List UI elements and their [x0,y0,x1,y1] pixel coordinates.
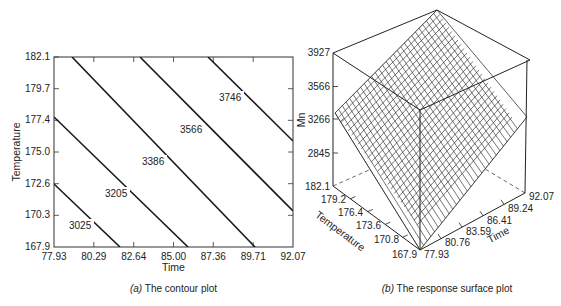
surface-time-tick: 77.93 [424,249,449,260]
contour-label-3386: 3386 [142,156,165,167]
contour-x-tick: 77.93 [41,251,66,262]
surface-z-tick: 3566 [308,81,331,92]
contour-y-tick: 177.4 [25,114,50,125]
contour-line-3566 [140,57,293,211]
contour-x-tick: 80.29 [81,251,106,262]
contour-y-tick: 179.7 [25,83,50,94]
contour-line-3386 [72,57,255,247]
surface-time-tick: 80.76 [445,237,470,248]
contour-label-3205: 3205 [105,188,128,199]
contour-lines [54,57,293,247]
response-surface-mesh [0,0,527,250]
surface-z-tick: 2845 [308,148,331,159]
surface-temperature-tick: 176.4 [338,207,363,218]
contour-y-axis [54,57,293,215]
surface-caption: (b) The response surface plot [382,283,513,294]
surface-time-tick: 86.41 [487,215,512,226]
contour-y-tick: 172.6 [25,178,50,189]
figure-canvas: 182.1 179.7 177.4 175.0 172.6 170.3 167.… [0,0,561,306]
surface-z-tick: 3266 [308,114,331,125]
surface-z-axis [333,87,338,154]
contour-x-tick: 92.07 [280,251,305,262]
contour-y-tick: 175.0 [25,146,50,157]
contour-plot: 182.1 179.7 177.4 175.0 172.6 170.3 167.… [10,51,306,294]
surface-temperature-tick: 179.2 [321,194,346,205]
contour-caption: (a) The contour plot [130,283,217,294]
surface-plot: 3927 3566 3266 2845 Mn 182.1 179.2 176.4… [0,0,554,294]
surface-temperature-tick: 167.9 [392,249,417,260]
surface-temperature-tick: 182.1 [305,181,330,192]
surface-z-tick: 3927 [308,47,331,58]
surface-time-tick: 92.07 [529,191,554,202]
contour-x-axis [94,57,253,247]
surface-z-label: Mn [295,113,307,128]
surface-temperature-tick: 173.6 [356,220,381,231]
contour-y-label: Temperature [10,122,22,181]
contour-x-tick: 82.64 [121,251,146,262]
contour-label-3566: 3566 [180,124,203,135]
surface-temperature-tick: 170.8 [374,234,399,245]
contour-y-tick: 182.1 [25,51,50,62]
contour-label-3025: 3025 [69,220,92,231]
surface-time-tick: 89.24 [508,203,533,214]
contour-x-tick: 89.71 [241,251,266,262]
contour-y-tick: 170.3 [25,209,50,220]
contour-x-label: Time [162,261,185,273]
contour-x-tick: 87.36 [201,251,226,262]
contour-label-3746: 3746 [219,92,242,103]
